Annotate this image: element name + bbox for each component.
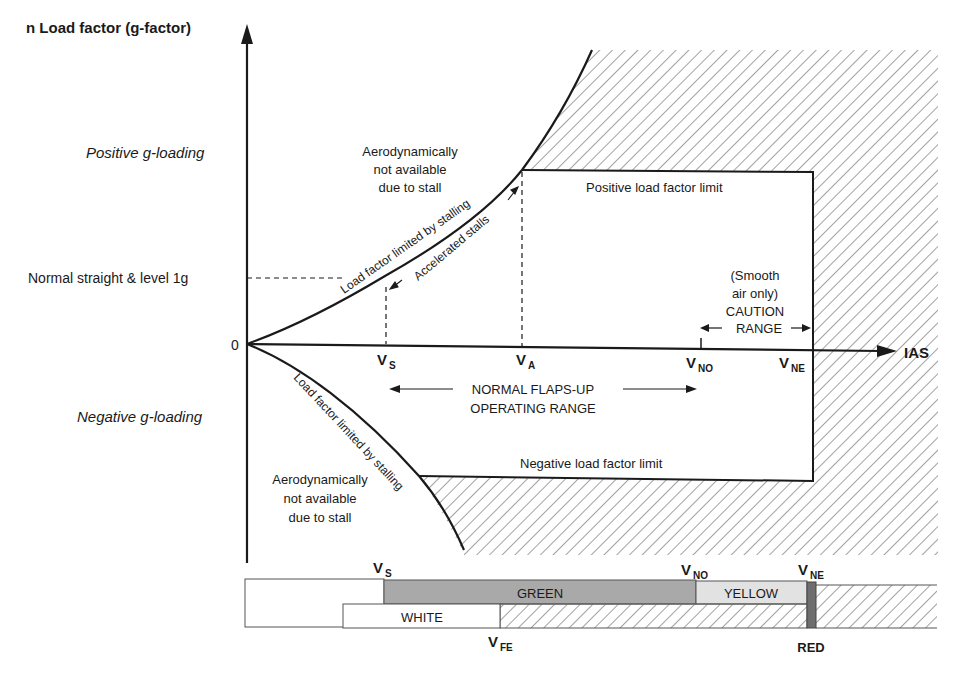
svg-text:V: V	[373, 559, 383, 576]
svg-text:air only): air only)	[732, 286, 778, 301]
svg-text:CAUTION: CAUTION	[726, 304, 785, 319]
svg-text:NE: NE	[791, 363, 805, 374]
svg-text:(Smooth: (Smooth	[730, 268, 779, 283]
speed-label-vne: V NE	[779, 354, 805, 374]
positive-g-label: Positive g-loading	[86, 144, 205, 161]
svg-text:not available: not available	[374, 162, 447, 177]
svg-text:Aerodynamically: Aerodynamically	[362, 144, 458, 159]
svg-text:S: S	[389, 360, 396, 371]
svg-text:V: V	[516, 351, 526, 368]
svg-text:V: V	[686, 354, 696, 371]
x-axis-label: IAS	[904, 344, 929, 361]
green-band-label: GREEN	[517, 586, 563, 601]
bar-label-vfe: V FE	[488, 633, 513, 653]
red-band	[807, 582, 816, 628]
red-band-label: RED	[797, 640, 824, 655]
svg-text:S: S	[385, 568, 392, 579]
vg-diagram: n Load factor (g-factor) IAS 0 Normal st…	[0, 0, 964, 678]
speed-label-vno: V NO	[686, 354, 713, 374]
svg-text:V: V	[798, 561, 808, 578]
speed-label-va: V A	[516, 351, 535, 371]
svg-text:NO: NO	[698, 363, 713, 374]
caution-range-annotation: (Smooth air only) CAUTION RANGE	[700, 268, 811, 336]
negative-g-label: Negative g-loading	[77, 408, 203, 425]
svg-text:due to stall: due to stall	[379, 180, 442, 195]
white-band-label: WHITE	[401, 610, 443, 625]
svg-text:NORMAL FLAPS-UP: NORMAL FLAPS-UP	[472, 382, 594, 397]
svg-text:OPERATING RANGE: OPERATING RANGE	[470, 401, 596, 416]
stall-top-text: Aerodynamically not available due to sta…	[362, 144, 458, 195]
y-axis-label: n Load factor (g-factor)	[26, 19, 191, 36]
bar-label-vs: V S	[373, 559, 392, 579]
x-axis	[247, 344, 880, 351]
positive-limit-label: Positive load factor limit	[586, 180, 723, 195]
normal-range-annotation: NORMAL FLAPS-UP OPERATING RANGE	[389, 382, 697, 416]
svg-text:FE: FE	[500, 642, 513, 653]
svg-text:RANGE: RANGE	[736, 321, 783, 336]
svg-text:V: V	[779, 354, 789, 371]
svg-text:V: V	[377, 351, 387, 368]
hatched-lower-band	[500, 604, 807, 628]
svg-text:NO: NO	[693, 570, 708, 581]
svg-text:due to stall: due to stall	[289, 510, 352, 525]
svg-text:V: V	[488, 633, 498, 650]
y-axis-arrow-icon	[241, 24, 253, 44]
svg-text:Aerodynamically: Aerodynamically	[272, 472, 368, 487]
svg-text:NE: NE	[810, 570, 824, 581]
hatched-right-band	[816, 585, 937, 628]
speed-label-vs: V S	[377, 351, 396, 371]
asi-color-bar	[245, 579, 937, 628]
svg-text:not available: not available	[284, 491, 357, 506]
svg-text:A: A	[528, 360, 535, 371]
negative-limit-label: Negative load factor limit	[520, 456, 663, 471]
bar-label-vno: V NO	[681, 561, 708, 581]
svg-text:V: V	[681, 561, 691, 578]
yellow-band-label: YELLOW	[724, 586, 779, 601]
upper-stall-curve	[247, 50, 592, 344]
stall-bottom-text: Aerodynamically not available due to sta…	[272, 472, 368, 525]
bar-label-vne: V NE	[798, 561, 824, 581]
accelerated-stalls-label: Accelerated stalls	[411, 212, 492, 283]
origin-label: 0	[231, 337, 239, 353]
one-g-label: Normal straight & level 1g	[28, 270, 188, 286]
